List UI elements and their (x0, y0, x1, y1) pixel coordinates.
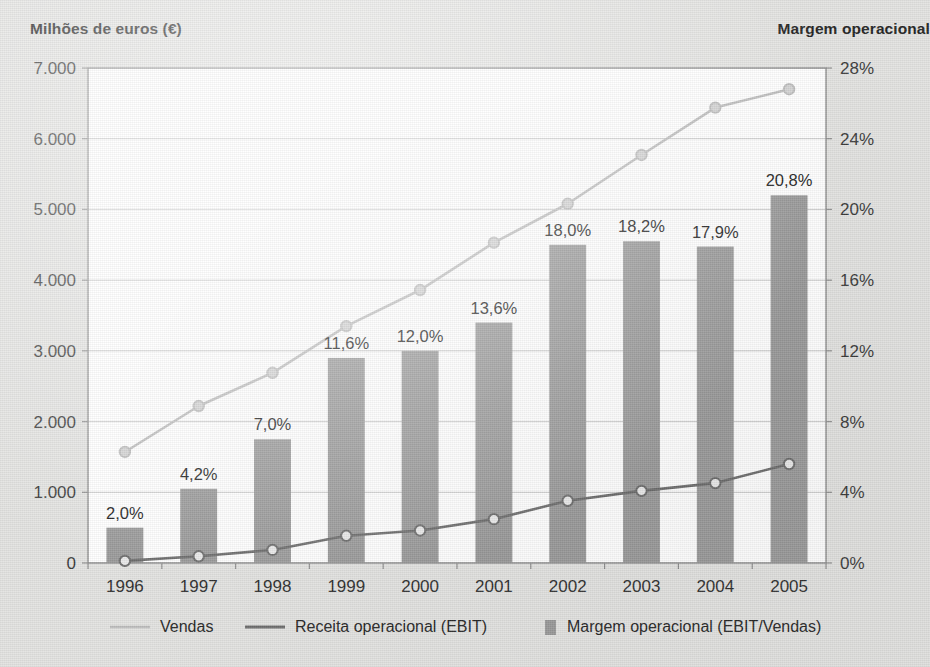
bar-value-label: 2,0% (106, 504, 144, 522)
y-axis-tick-label: 1.000 (33, 483, 76, 502)
bar-value-label: 11,6% (324, 334, 370, 352)
y-axis-tick-label: 6.000 (33, 130, 76, 149)
data-point-marker (267, 368, 277, 378)
data-point-marker (415, 285, 425, 295)
x-axis-tick-label: 2004 (696, 577, 734, 596)
data-point-marker (563, 496, 573, 506)
bar-value-label: 20,8% (766, 171, 813, 189)
bar (549, 245, 586, 563)
x-axis-tick-label: 1996 (106, 577, 144, 596)
data-point-marker (710, 478, 720, 488)
data-point-marker (267, 545, 277, 555)
dual-axis-combo-chart: 01.0002.0003.0004.0005.0006.0007.000 0%4… (0, 0, 930, 667)
data-point-marker (194, 551, 204, 561)
bar (697, 247, 734, 563)
bar-value-label: 18,2% (618, 217, 665, 235)
chart-legend: VendasReceita operacional (EBIT)Margem o… (110, 618, 821, 635)
data-point-marker (710, 102, 720, 112)
bar-value-label: 7,0% (254, 415, 292, 433)
data-point-marker (489, 514, 499, 524)
data-point-marker (415, 525, 425, 535)
bar (771, 195, 808, 563)
data-point-marker (636, 150, 646, 160)
y-axis-tick-label: 0 (67, 554, 76, 573)
y2-axis-tick-label: 24% (840, 130, 874, 149)
bar-value-label: 18,0% (544, 221, 591, 239)
y2-axis-tick-label: 12% (840, 342, 874, 361)
data-point-marker (194, 401, 204, 411)
bar-value-label: 13,6% (471, 299, 518, 317)
y-axis-tick-label: 5.000 (33, 200, 76, 219)
data-point-marker (120, 556, 130, 566)
legend-label: Vendas (160, 618, 213, 635)
y-axis-tick-label: 2.000 (33, 413, 76, 432)
y2-axis-tick-label: 8% (840, 413, 865, 432)
data-point-marker (341, 321, 351, 331)
legend-swatch-bar (545, 620, 556, 635)
y2-axis-tick-label: 0% (840, 554, 865, 573)
data-point-marker (784, 84, 794, 94)
x-axis-tick-label: 2005 (770, 577, 808, 596)
data-point-marker (341, 531, 351, 541)
x-axis-tick-label: 2003 (623, 577, 661, 596)
bar (623, 241, 660, 563)
y2-axis-tick-label: 16% (840, 271, 874, 290)
x-axis-labels-group: 1996199719981999200020012002200320042005 (106, 577, 808, 596)
x-axis-tick-label: 2002 (549, 577, 587, 596)
y-axis-labels-group: 01.0002.0003.0004.0005.0006.0007.000 (33, 59, 76, 573)
x-axis-tick-label: 1998 (254, 577, 292, 596)
data-point-marker (489, 237, 499, 247)
bar (475, 323, 512, 563)
x-axis-tick-label: 1997 (180, 577, 218, 596)
data-point-marker (120, 447, 130, 457)
y-axis-tick-label: 4.000 (33, 271, 76, 290)
x-axis-tick-label: 2000 (401, 577, 439, 596)
legend-label: Margem operacional (EBIT/Vendas) (567, 618, 821, 635)
bar-value-label: 12,0% (397, 327, 444, 345)
x-axis-tick-label: 1999 (327, 577, 365, 596)
bar-value-label: 17,9% (692, 223, 739, 241)
y2-axis-tick-label: 20% (840, 200, 874, 219)
chart-canvas: 01.0002.0003.0004.0005.0006.0007.000 0%4… (0, 0, 930, 667)
x-axis-tick-label: 2001 (475, 577, 513, 596)
data-point-marker (563, 199, 573, 209)
y-axis-tick-label: 7.000 (33, 59, 76, 78)
bar-value-label: 4,2% (180, 465, 218, 483)
y2-axis-labels-group: 0%4%8%12%16%20%24%28% (840, 59, 874, 573)
legend-label: Receita operacional (EBIT) (295, 618, 487, 635)
y2-axis-tick-label: 4% (840, 483, 865, 502)
y2-axis-tick-label: 28% (840, 59, 874, 78)
data-point-marker (636, 486, 646, 496)
data-point-marker (784, 459, 794, 469)
y-axis-tick-label: 3.000 (33, 342, 76, 361)
